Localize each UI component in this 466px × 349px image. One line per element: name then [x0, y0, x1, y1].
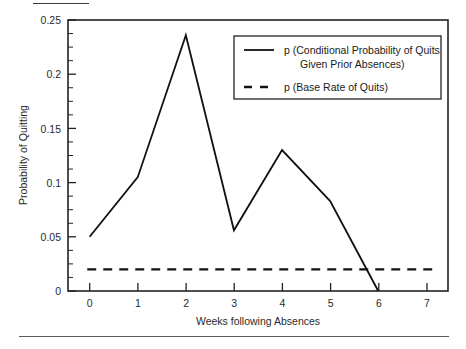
legend-label-conditional-line2: Given Prior Absences) [300, 58, 404, 70]
y-tick-label-01: 0.1 [46, 177, 61, 189]
x-tick-label-0: 0 [87, 297, 93, 309]
figure-container: 0.25 0.2 0.15 0.1 0.05 0 0 1 2 3 4 5 6 7… [0, 0, 466, 349]
x-tick-label-3: 3 [231, 297, 237, 309]
y-tick-label-02: 0.2 [46, 68, 61, 80]
x-tick-label-5: 5 [328, 297, 334, 309]
y-tick-label-015: 0.15 [41, 123, 62, 135]
y-tick-label-0: 0 [55, 285, 61, 297]
y-tick-label-025: 0.25 [41, 14, 62, 26]
x-tick-label-6: 6 [376, 297, 382, 309]
x-tick-label-2: 2 [183, 297, 189, 309]
legend-label-base-rate: p (Base Rate of Quits) [284, 81, 388, 93]
y-tick-label-005: 0.05 [41, 231, 62, 243]
x-tick-label-4: 4 [279, 297, 285, 309]
legend-label-conditional-line1: p (Conditional Probability of Quits [284, 44, 440, 56]
x-tick-label-1: 1 [135, 297, 141, 309]
line-chart: 0.25 0.2 0.15 0.1 0.05 0 0 1 2 3 4 5 6 7… [0, 0, 466, 349]
y-axis-title: Probability of Quitting [17, 105, 29, 205]
x-tick-label-7: 7 [424, 297, 430, 309]
x-axis-title: Weeks following Absences [196, 315, 320, 327]
bottom-rule [19, 336, 449, 337]
